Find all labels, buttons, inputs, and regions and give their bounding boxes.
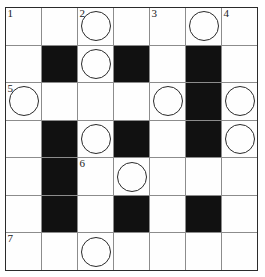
grid-cell[interactable] [222, 121, 257, 158]
grid-cell-block [42, 196, 77, 233]
grid-cell[interactable] [150, 196, 185, 233]
grid-cell[interactable] [114, 158, 149, 195]
crossword-grid-container: 1234567 [5, 7, 258, 271]
grid-cell[interactable] [222, 233, 257, 270]
grid-cell[interactable] [222, 196, 257, 233]
circle-marker-icon [81, 49, 111, 79]
puzzle-page: 1234567 [0, 0, 265, 277]
grid-cell-block [114, 196, 149, 233]
grid-cell[interactable] [78, 233, 113, 270]
circle-marker-icon [189, 11, 219, 41]
grid-cell[interactable]: 7 [6, 233, 41, 270]
circle-marker-icon [9, 86, 39, 116]
grid-cell[interactable] [114, 8, 149, 45]
grid-cell-block [186, 196, 221, 233]
grid-cell[interactable]: 3 [150, 8, 185, 45]
grid-cell[interactable] [150, 158, 185, 195]
grid-cell-block [42, 121, 77, 158]
grid-cell-block [42, 158, 77, 195]
grid-cell-block [186, 83, 221, 120]
grid-cell[interactable] [78, 196, 113, 233]
clue-number: 5 [8, 83, 14, 94]
grid-cell[interactable] [78, 83, 113, 120]
clue-number: 1 [8, 8, 14, 19]
grid-cell-block [114, 46, 149, 83]
clue-number: 3 [152, 8, 158, 19]
grid-cell[interactable] [150, 233, 185, 270]
grid-cell[interactable] [114, 83, 149, 120]
grid-cell[interactable] [42, 8, 77, 45]
grid-cell[interactable] [78, 121, 113, 158]
circle-marker-icon [225, 124, 255, 154]
grid-cell[interactable] [78, 46, 113, 83]
grid-cell[interactable] [42, 233, 77, 270]
circle-marker-icon [153, 86, 183, 116]
circle-marker-icon [81, 124, 111, 154]
grid-cell[interactable]: 6 [78, 158, 113, 195]
grid-cell[interactable] [222, 158, 257, 195]
grid-cell[interactable]: 5 [6, 83, 41, 120]
grid-cell[interactable] [150, 121, 185, 158]
grid-cell[interactable] [222, 46, 257, 83]
grid-cell[interactable]: 1 [6, 8, 41, 45]
grid-cell[interactable]: 4 [222, 8, 257, 45]
grid-cell[interactable] [114, 233, 149, 270]
grid-cell[interactable] [186, 158, 221, 195]
grid-cell[interactable] [6, 46, 41, 83]
grid-cell[interactable] [186, 233, 221, 270]
clue-number: 2 [80, 8, 86, 19]
grid-cell-block [114, 121, 149, 158]
circle-marker-icon [225, 86, 255, 116]
grid-cell[interactable] [186, 8, 221, 45]
grid-cell[interactable] [42, 83, 77, 120]
crossword-grid[interactable]: 1234567 [5, 7, 258, 271]
grid-cell-block [42, 46, 77, 83]
grid-cell-block [186, 46, 221, 83]
grid-cell[interactable] [150, 46, 185, 83]
circle-marker-icon [81, 237, 111, 267]
circle-marker-icon [81, 11, 111, 41]
clue-number: 7 [8, 233, 14, 244]
grid-cell[interactable]: 2 [78, 8, 113, 45]
circle-marker-icon [117, 162, 147, 192]
clue-number: 4 [224, 8, 230, 19]
clue-number: 6 [80, 158, 86, 169]
grid-cell[interactable] [6, 121, 41, 158]
grid-cell[interactable] [222, 83, 257, 120]
grid-cell[interactable] [6, 158, 41, 195]
grid-cell[interactable] [6, 196, 41, 233]
grid-cell[interactable] [150, 83, 185, 120]
grid-cell-block [186, 121, 221, 158]
